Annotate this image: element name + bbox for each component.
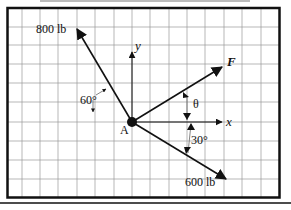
- diagram-frame: [8, 8, 280, 198]
- top-caption-remnant: [40, 0, 250, 2]
- x-axis-label: x: [225, 114, 232, 129]
- force-F-label: F: [226, 54, 236, 69]
- angle-30-arrow-bottom: [184, 147, 191, 154]
- force-diagram: 800 lb F 600 lb y x A 60° θ 30°: [0, 0, 291, 210]
- angle-60-label: 60°: [80, 93, 97, 107]
- force-600-arrow: [132, 122, 226, 179]
- y-axis-label: y: [133, 38, 141, 53]
- angle-theta-arrow-bottom: [183, 113, 191, 120]
- force-600-label: 600 lb: [185, 175, 215, 189]
- grid: [8, 8, 280, 197]
- angle-30-arrow-top: [187, 123, 195, 130]
- force-F-arrow: [132, 67, 222, 122]
- angle-60-leader: [96, 89, 106, 95]
- force-800-arrow: [77, 29, 132, 122]
- angle-theta-label: θ: [193, 97, 199, 111]
- point-A-label: A: [120, 123, 129, 137]
- angle-theta-arrow-top: [183, 92, 189, 98]
- angle-30-label: 30°: [191, 133, 208, 147]
- force-800-label: 800 lb: [36, 22, 66, 36]
